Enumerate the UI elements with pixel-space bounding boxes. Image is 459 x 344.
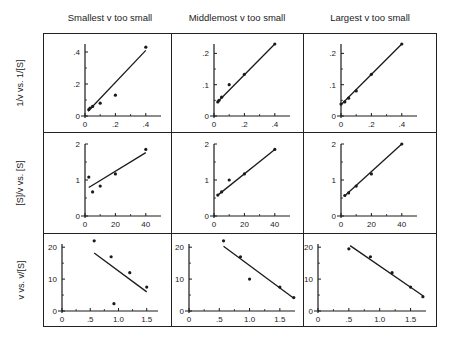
chart-panel-r2c2: 02040012 — [214, 140, 294, 230]
y-tick-label: 20 — [48, 243, 57, 252]
x-tick-label: 20 — [111, 220, 120, 229]
chart-panel-r2c3: 02040012 — [341, 140, 421, 230]
data-point — [400, 142, 403, 145]
data-point — [222, 239, 225, 242]
x-tick-label: .4 — [142, 120, 149, 129]
x-tick-label: 40 — [141, 220, 150, 229]
x-tick-label: 20 — [240, 220, 249, 229]
data-point — [110, 255, 113, 258]
x-tick-label: 0 — [339, 220, 344, 229]
y-tick-label: 0 — [332, 112, 337, 121]
y-tick-label: 0 — [76, 112, 81, 121]
x-tick-label: 1.5 — [405, 315, 417, 324]
data-point — [144, 148, 147, 151]
data-point — [369, 255, 372, 258]
y-tick-label: 2 — [205, 140, 210, 149]
data-point — [400, 42, 403, 45]
fit-line — [224, 246, 294, 298]
y-tick-label: 2 — [332, 140, 337, 149]
data-point — [99, 102, 102, 105]
data-point — [220, 96, 223, 99]
y-tick-label: 10 — [175, 275, 184, 284]
data-point — [347, 247, 350, 250]
x-tick-label: 20 — [367, 220, 376, 229]
chart-panel-r1c3: 0.2.40.1.2 — [341, 40, 421, 130]
x-tick-label: 1.5 — [274, 315, 286, 324]
data-point — [343, 194, 346, 197]
data-point — [339, 103, 342, 106]
x-tick-label: 1.0 — [244, 315, 256, 324]
data-point — [273, 148, 276, 151]
data-point — [243, 172, 246, 175]
row-label-hanes-woolf: [S]/v vs. [S] — [2, 132, 38, 233]
x-tick-label: 40 — [397, 220, 406, 229]
y-tick-label: .2 — [329, 49, 336, 58]
row-divider — [43, 132, 437, 133]
y-tick-label: .1 — [202, 81, 209, 90]
data-point — [91, 190, 94, 193]
data-point — [145, 285, 148, 288]
column-title-smallest: Smallest v too small — [45, 12, 175, 23]
data-point — [93, 239, 96, 242]
column-title-middlemost: Middlemost v too small — [172, 12, 302, 23]
fit-line — [345, 144, 402, 196]
y-tick-label: 0 — [76, 212, 81, 221]
y-tick-label: .4 — [73, 48, 80, 57]
data-point — [243, 73, 246, 76]
data-point — [409, 285, 412, 288]
y-tick-label: 1 — [205, 176, 210, 185]
x-tick-label: .2 — [241, 120, 248, 129]
data-point — [370, 172, 373, 175]
y-tick-label: .2 — [202, 49, 209, 58]
data-point — [370, 73, 373, 76]
fit-line — [94, 253, 147, 292]
x-tick-label: .5 — [216, 315, 223, 324]
data-point — [87, 176, 90, 179]
data-point — [220, 190, 223, 193]
x-tick-label: .5 — [87, 315, 94, 324]
y-tick-label: 20 — [175, 243, 184, 252]
y-tick-label: 0 — [205, 112, 210, 121]
data-point — [239, 255, 242, 258]
x-tick-label: 0 — [83, 120, 88, 129]
data-point — [248, 277, 251, 280]
x-tick-label: 1.0 — [113, 315, 125, 324]
chart-panel-r3c1: 0.51.01.501020 — [62, 240, 162, 325]
row-label-eadie-hofstee: v vs. v/[S] — [2, 233, 38, 327]
chart-panel-r1c2: 0.2.40.1.2 — [214, 40, 294, 130]
y-tick-label: 20 — [304, 243, 313, 252]
data-point — [91, 105, 94, 108]
x-tick-label: .4 — [271, 120, 278, 129]
row-label-lineweaver-burk: 1/v vs. 1/[S] — [2, 33, 38, 132]
column-title-largest: Largest v too small — [305, 12, 435, 23]
data-point — [228, 83, 231, 86]
fit-line — [88, 50, 146, 111]
x-tick-label: 1.5 — [141, 315, 153, 324]
y-tick-label: 10 — [304, 275, 313, 284]
data-point — [112, 302, 115, 305]
chart-panel-r3c2: 0.51.01.501020 — [189, 240, 299, 325]
row-label-text: v vs. v/[S] — [15, 260, 25, 299]
fit-line — [350, 246, 423, 296]
data-point — [228, 178, 231, 181]
y-tick-label: 0 — [332, 212, 337, 221]
chart-panel-r1c1: 0.2.40.2.4 — [85, 40, 165, 130]
x-tick-label: 0 — [187, 315, 192, 324]
data-point — [347, 97, 350, 100]
data-point — [114, 172, 117, 175]
y-tick-label: 0 — [309, 307, 314, 316]
row-label-text: [S]/v vs. [S] — [15, 160, 25, 206]
data-point — [347, 191, 350, 194]
chart-panel-r3c3: 0.51.01.501020 — [318, 240, 430, 325]
x-tick-label: .5 — [346, 315, 353, 324]
data-point — [217, 99, 220, 102]
fit-line — [218, 149, 275, 195]
x-tick-label: 0 — [83, 220, 88, 229]
data-point — [421, 295, 424, 298]
y-tick-label: .2 — [73, 80, 80, 89]
data-point — [355, 185, 358, 188]
row-label-text: 1/v vs. 1/[S] — [15, 59, 25, 106]
data-point — [343, 100, 346, 103]
row-divider — [43, 233, 437, 234]
data-point — [278, 285, 281, 288]
